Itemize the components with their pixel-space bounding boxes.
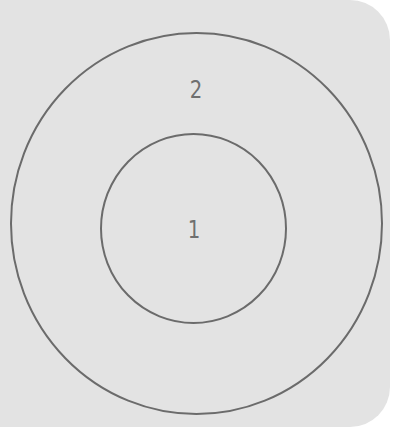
inner-zone-label: 1 (186, 218, 201, 242)
inner-zone-label-text: 1 (188, 218, 201, 242)
outer-zone-label: 2 (188, 78, 203, 102)
outer-zone-label-text: 2 (190, 78, 203, 102)
concentric-circles-diagram (0, 0, 412, 437)
